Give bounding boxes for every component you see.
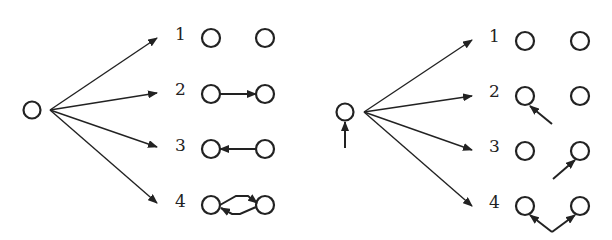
right-b3-node-b (571, 142, 589, 160)
right-b4-arrow-right (552, 215, 575, 232)
left-b4-node-b (256, 196, 274, 214)
left-b4-node-a (202, 196, 220, 214)
right-branch-label-3: 3 (489, 138, 500, 155)
right-branch-label-2: 2 (489, 83, 500, 100)
right-branch-label-1: 1 (489, 28, 500, 45)
left-b3-node-a (202, 140, 220, 158)
left-b1-node-b (256, 29, 274, 47)
left-source-node (24, 102, 41, 119)
right-b4-arrow-left (530, 215, 552, 232)
right-b1-node-b (571, 32, 589, 50)
right-branch-label-4: 4 (489, 194, 500, 211)
left-branch-label-1: 1 (175, 26, 186, 43)
left-branch-label-3: 3 (175, 137, 186, 154)
right-b2-arrow (530, 106, 552, 124)
right-fan-arrows (364, 40, 472, 206)
right-b4-node-a (516, 197, 534, 215)
right-b3-arrow (553, 160, 575, 179)
left-b3-node-b (256, 140, 274, 158)
left-branch-label-2: 2 (175, 81, 186, 98)
left-branch-label-4: 4 (175, 193, 186, 210)
right-b3-node-a (516, 142, 534, 160)
left-fan-arrows (50, 38, 157, 203)
right-b2-node-b (571, 87, 589, 105)
left-b2-node-b (256, 85, 274, 103)
left-b4-arrow-forward (220, 196, 257, 205)
right-b4-node-b (571, 197, 589, 215)
right-b2-node-a (516, 87, 534, 105)
right-b1-node-a (516, 32, 534, 50)
left-b4-arrow-back (221, 207, 256, 214)
right-source-node (337, 104, 354, 121)
left-b1-node-a (202, 29, 220, 47)
diagram-canvas (0, 0, 612, 240)
left-b2-node-a (202, 85, 220, 103)
